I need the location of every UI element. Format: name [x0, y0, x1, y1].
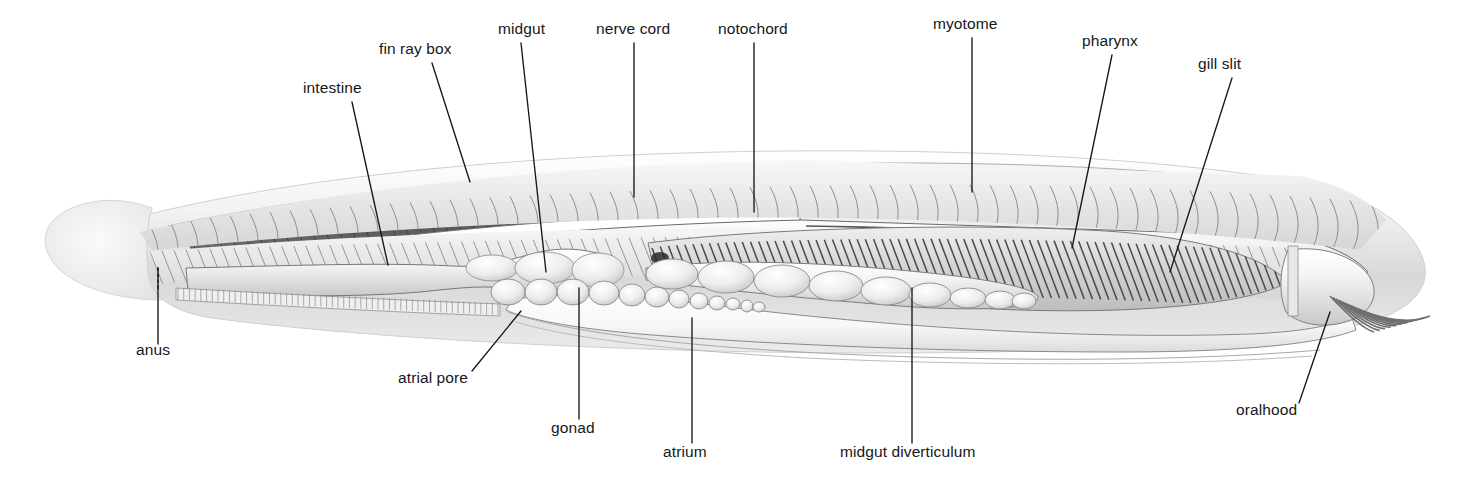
label-atrial-pore: atrial pore: [398, 370, 468, 386]
label-nerve-cord: nerve cord: [596, 21, 670, 37]
label-myotome: myotome: [933, 16, 997, 32]
label-fin-ray-box: fin ray box: [379, 41, 452, 57]
figure-canvas: intestinefin ray boxmidgutnerve cordnoto…: [0, 0, 1457, 491]
label-gonad: gonad: [551, 420, 595, 436]
leader-fin-ray-box: [432, 63, 470, 182]
label-oralhood: oralhood: [1236, 402, 1297, 418]
label-anus: anus: [136, 342, 170, 358]
label-intestine: intestine: [303, 80, 362, 96]
label-notochord: notochord: [718, 21, 788, 37]
label-midgut-diverticulum: midgut diverticulum: [840, 444, 975, 460]
label-midgut: midgut: [498, 21, 545, 37]
label-gill-slit: gill slit: [1198, 56, 1241, 72]
label-pharynx: pharynx: [1082, 33, 1138, 49]
label-atrium: atrium: [663, 444, 707, 460]
